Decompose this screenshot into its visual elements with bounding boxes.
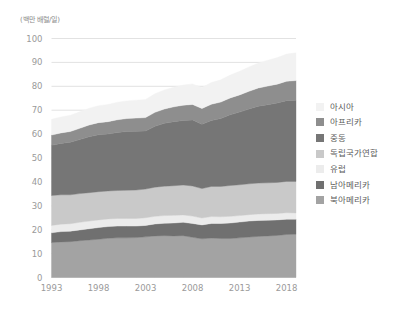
legend-swatch-icon — [316, 150, 324, 158]
y-axis-tick-label: 30 — [32, 201, 43, 211]
legend-item-label: 아프리카 — [330, 118, 362, 127]
x-axis-tick-label: 1998 — [88, 283, 110, 293]
legend-item[interactable]: 북아메리카 — [316, 193, 396, 209]
legend-item[interactable]: 중동 — [316, 130, 396, 146]
legend-swatch-icon — [316, 165, 324, 173]
y-axis-tick-label: 0 — [37, 273, 42, 283]
legend-item-label: 중동 — [330, 134, 346, 143]
y-axis-tick-label: 100 — [26, 34, 42, 44]
legend-item[interactable]: 독립국가연합 — [316, 146, 396, 162]
x-axis-tick-label: 2003 — [135, 283, 157, 293]
y-axis-tick-label: 60 — [32, 129, 43, 139]
legend-item[interactable]: 아프리카 — [316, 115, 396, 131]
x-axis-tick-label: 1993 — [41, 283, 63, 293]
x-axis-tick-label: 2018 — [276, 283, 298, 293]
chart-legend: 아시아아프리카중동독립국가연합유럽남아메리카북아메리카 — [316, 99, 396, 208]
legend-item-label: 유럽 — [330, 165, 346, 174]
legend-swatch-icon — [316, 134, 324, 142]
legend-item-label: 북아메리카 — [330, 196, 370, 205]
y-axis: 0102030405060708090100 — [26, 34, 42, 283]
legend-item[interactable]: 남아메리카 — [316, 177, 396, 193]
y-axis-tick-label: 20 — [32, 225, 43, 235]
area-series — [52, 234, 297, 277]
legend-item-label: 독립국가연합 — [330, 149, 378, 158]
x-axis-tick-label: 2013 — [229, 283, 251, 293]
y-axis-tick-label: 10 — [32, 249, 43, 259]
legend-item[interactable]: 아시아 — [316, 99, 396, 115]
chart-figure: (백만 배럴/일) 010203040506070809010019931998… — [0, 0, 396, 312]
x-axis: 199319982003200820132018 — [41, 283, 298, 293]
x-axis-tick-label: 2008 — [182, 283, 204, 293]
y-axis-tick-label: 50 — [32, 153, 43, 163]
legend-swatch-icon — [316, 181, 324, 189]
y-axis-tick-label: 90 — [32, 57, 43, 67]
y-axis-tick-label: 40 — [32, 177, 43, 187]
y-axis-tick-label: 80 — [32, 81, 43, 91]
legend-item[interactable]: 유럽 — [316, 161, 396, 177]
legend-swatch-icon — [316, 103, 324, 111]
legend-item-label: 남아메리카 — [330, 181, 370, 190]
legend-swatch-icon — [316, 196, 324, 204]
legend-item-label: 아시아 — [330, 103, 354, 112]
y-axis-tick-label: 70 — [32, 105, 43, 115]
legend-swatch-icon — [316, 118, 324, 126]
